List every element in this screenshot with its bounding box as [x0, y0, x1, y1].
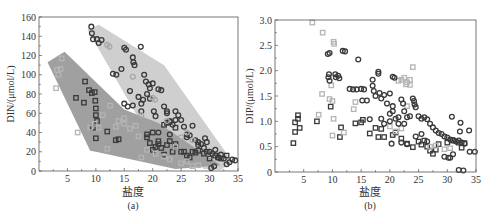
- square-marker: [379, 127, 383, 131]
- square-marker: [320, 92, 324, 96]
- envelope-regions: [48, 25, 233, 170]
- series-circles-dark: [325, 49, 477, 173]
- circle-marker: [419, 132, 424, 137]
- x-tick-label: 5: [65, 173, 70, 184]
- square-marker: [339, 125, 343, 129]
- square-marker: [388, 124, 392, 128]
- circle-marker: [387, 119, 392, 124]
- y-tick-label: 2.5: [260, 40, 273, 51]
- square-marker: [338, 135, 342, 139]
- x-tick-label: 25: [176, 173, 186, 184]
- y-tick-label: 100: [21, 69, 36, 80]
- square-marker: [315, 119, 319, 123]
- panel-a: 5101520253035020406080100120140160 DIN/(…: [5, 12, 243, 213]
- x-tick-label: 30: [205, 173, 215, 184]
- circle-marker: [382, 93, 387, 98]
- y-tick-label: 0: [267, 167, 272, 178]
- square-marker: [436, 142, 440, 146]
- circle-marker: [138, 44, 143, 49]
- x-tick-label: 10: [327, 174, 337, 185]
- y-tick-label: 0.5: [260, 141, 273, 152]
- square-marker: [411, 145, 415, 149]
- square-marker: [320, 30, 324, 34]
- square-marker: [329, 104, 333, 108]
- square-marker: [291, 141, 295, 145]
- circle-marker: [467, 128, 472, 133]
- circle-marker: [425, 139, 430, 144]
- square-marker: [368, 131, 372, 135]
- x-tick-label: 35: [471, 174, 481, 185]
- x-tick-label: 20: [385, 174, 395, 185]
- circle-marker: [413, 134, 418, 139]
- y-tick-label: 20: [26, 146, 36, 157]
- square-marker: [54, 86, 58, 90]
- circle-marker: [402, 121, 407, 126]
- x-axis-label: 盐度: [122, 185, 144, 198]
- circle-marker: [370, 77, 375, 82]
- panel-b: 510152025303500.51.01.52.02.53.0 DIP/(μm…: [244, 15, 481, 213]
- y-tick-label: 160: [21, 12, 36, 23]
- x-axis-label: 盐度: [359, 185, 381, 198]
- circle-marker: [370, 83, 375, 88]
- y-axis-label: DIP/(μmol/L): [244, 68, 256, 123]
- circle-marker: [396, 121, 401, 126]
- y-tick-label: 40: [26, 127, 36, 138]
- square-marker: [316, 113, 320, 117]
- square-marker: [297, 126, 301, 130]
- circle-marker: [472, 149, 477, 154]
- circle-marker: [449, 114, 454, 119]
- circle-marker: [367, 117, 372, 122]
- x-tick-label: 30: [442, 174, 452, 185]
- circle-marker: [356, 57, 361, 62]
- circle-marker: [451, 152, 456, 157]
- circle-marker: [467, 149, 472, 154]
- square-marker: [448, 146, 452, 150]
- figure: 5101520253035020406080100120140160 DIN/(…: [0, 0, 485, 222]
- square-marker: [399, 126, 403, 130]
- square-marker: [373, 126, 377, 130]
- circle-marker: [458, 129, 463, 134]
- scatter-points: [291, 20, 477, 173]
- y-tick-label: 3.0: [260, 15, 273, 26]
- x-tick-label: 20: [148, 173, 158, 184]
- panel-caption: (b): [364, 200, 376, 212]
- circle-marker: [387, 91, 392, 96]
- y-tick-label: 140: [21, 31, 36, 42]
- circle-marker: [458, 120, 463, 125]
- circle-marker: [379, 116, 384, 121]
- square-marker: [310, 20, 314, 24]
- y-tick-label: 1.0: [260, 116, 273, 127]
- y-axis-label: DIN/(μmol/L): [5, 65, 17, 122]
- plot-frame: [275, 20, 476, 172]
- y-tick-label: 80: [26, 89, 36, 100]
- x-tick-label: 5: [301, 174, 306, 185]
- square-marker: [416, 139, 420, 143]
- y-tick-label: 120: [21, 50, 36, 61]
- square-marker: [351, 107, 355, 111]
- square-marker: [353, 121, 357, 125]
- y-tick-label: 2.0: [260, 65, 273, 76]
- circle-marker: [385, 101, 390, 106]
- x-tick-label: 25: [414, 174, 424, 185]
- y-tick-label: 1.5: [260, 91, 273, 102]
- x-tick-label: 35: [233, 173, 243, 184]
- x-tick-label: 10: [91, 173, 101, 184]
- x-tick-label: 15: [356, 174, 366, 185]
- y-tick-label: 0: [31, 166, 36, 177]
- square-marker: [75, 130, 79, 134]
- square-marker: [382, 135, 386, 139]
- circle-marker: [371, 89, 376, 94]
- circle-marker: [390, 104, 395, 109]
- circle-marker: [125, 104, 130, 109]
- circle-marker: [402, 109, 407, 114]
- x-tick-label: 15: [119, 173, 129, 184]
- circle-marker: [382, 121, 387, 126]
- square-marker: [331, 117, 335, 121]
- square-marker: [442, 147, 446, 151]
- y-tick-label: 60: [26, 108, 36, 119]
- panel-caption: (a): [127, 200, 138, 212]
- square-marker: [353, 100, 357, 104]
- square-marker: [411, 65, 415, 69]
- square-marker: [342, 130, 346, 134]
- square-marker: [330, 133, 334, 137]
